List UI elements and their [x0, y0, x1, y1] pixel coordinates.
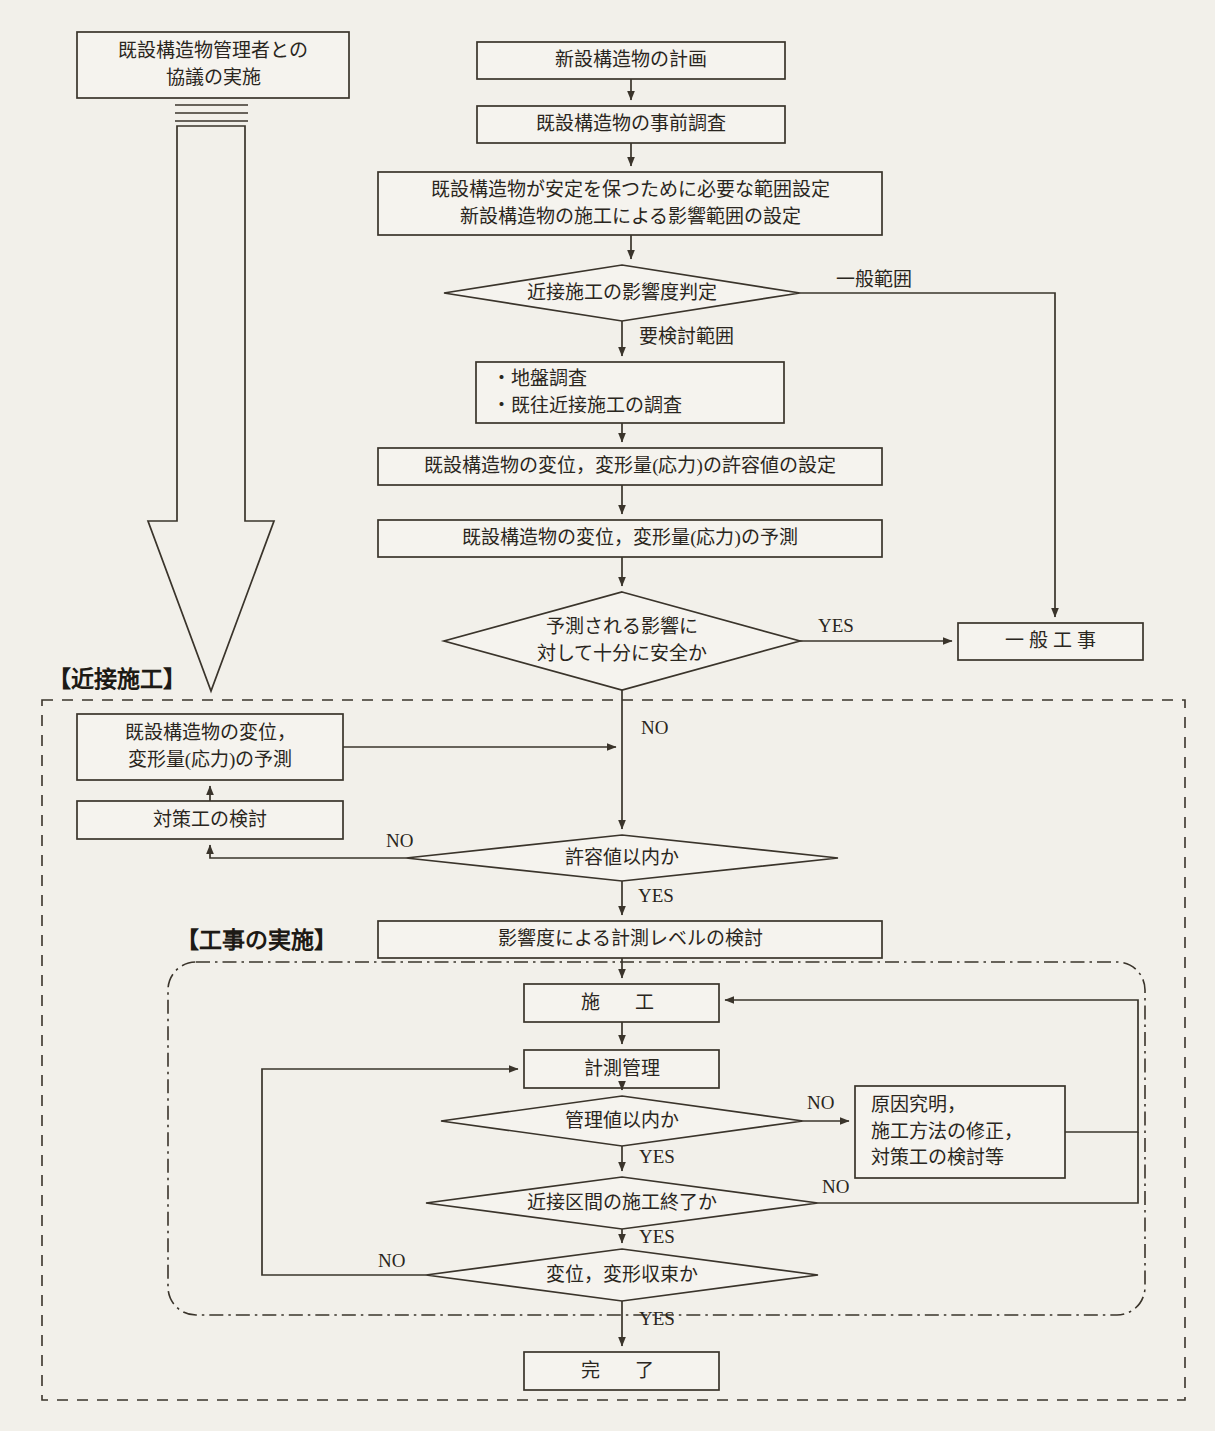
- region-close-construction-title: 【近接施工】: [48, 664, 186, 695]
- node-section-finished-diamond: [426, 1177, 818, 1229]
- block-arrow-consultation: [148, 105, 274, 691]
- edge-label-yes-allowable: YES: [638, 883, 674, 909]
- node-safe-enough-diamond: [444, 592, 800, 690]
- edge-allowable-no-to-countermeasure: [210, 845, 406, 858]
- node-consultation-box: [77, 32, 349, 98]
- node-pre-survey-box: [477, 106, 785, 143]
- node-displacement-converged-diamond: [426, 1249, 818, 1301]
- node-measurement-mgmt-box: [524, 1050, 719, 1088]
- node-within-allowable-diamond: [406, 835, 838, 881]
- edge-label-no-safe: NO: [641, 715, 668, 741]
- edge-displacement-no-loop: [262, 1069, 518, 1275]
- edge-label-no-section: NO: [822, 1174, 849, 1200]
- edge-label-needs-review: 要検討範囲: [639, 324, 734, 350]
- node-surveys-box: [476, 362, 784, 423]
- edge-label-no-control: NO: [807, 1090, 834, 1116]
- node-prediction-2-box: [77, 714, 343, 780]
- node-range-setting-box: [378, 172, 882, 235]
- node-general-work-box: [958, 623, 1143, 660]
- node-allowable-setting-box: [378, 448, 882, 485]
- node-measure-level-box: [378, 921, 882, 958]
- region-work-execution-title: 【工事の実施】: [176, 925, 337, 956]
- flowchart-canvas: 既設構造物管理者との 協議の実施 新設構造物の計画 既設構造物の事前調査 既設構…: [0, 0, 1215, 1431]
- flowchart-graphics: [0, 0, 1215, 1431]
- node-cause-investigation-box: [855, 1086, 1065, 1178]
- node-plan-new-box: [477, 42, 785, 79]
- node-prediction-1-box: [378, 520, 882, 557]
- node-construction-box: [524, 984, 719, 1022]
- edge-label-yes-safe: YES: [818, 613, 854, 639]
- edge-label-general-range: 一般範囲: [836, 267, 912, 293]
- edge-label-yes-section: YES: [639, 1224, 675, 1250]
- edge-label-yes-control: YES: [639, 1144, 675, 1170]
- node-complete-box: [524, 1352, 719, 1390]
- edge-label-yes-converged: YES: [639, 1306, 675, 1332]
- edge-label-no-allowable: NO: [386, 828, 413, 854]
- node-within-control-diamond: [441, 1096, 803, 1146]
- node-impact-judgement-diamond: [444, 265, 800, 321]
- node-countermeasure-box: [77, 801, 343, 839]
- edge-label-no-converged: NO: [378, 1248, 405, 1274]
